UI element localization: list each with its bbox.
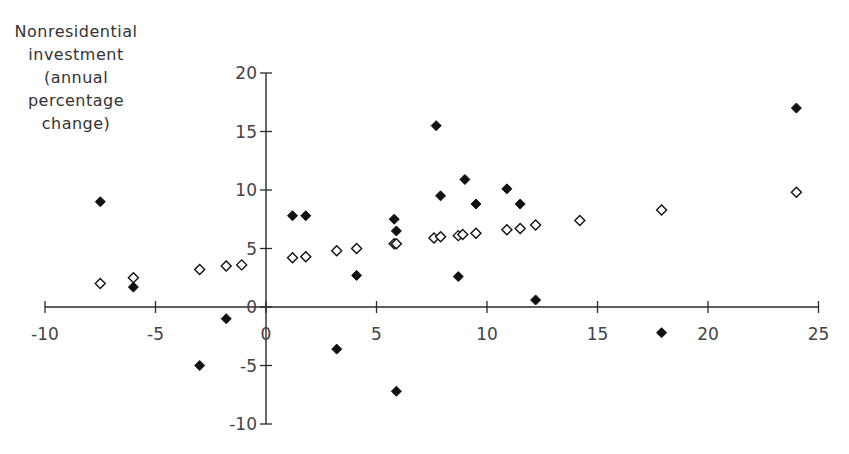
open-diamond-marker <box>657 205 667 215</box>
y-tick-label: 0 <box>246 297 257 317</box>
filled-diamond-marker <box>221 314 231 324</box>
filled-diamond-marker <box>391 226 401 236</box>
filled-diamond-marker <box>436 191 446 201</box>
open-diamond-marker <box>515 224 525 234</box>
data-markers <box>95 103 801 396</box>
y-tick-label: -5 <box>240 356 257 376</box>
filled-diamond-marker <box>791 103 801 113</box>
x-tick-label: 20 <box>697 324 719 344</box>
open-diamond-marker <box>95 279 105 289</box>
open-diamond-marker <box>237 260 247 270</box>
y-tick-label: 15 <box>235 122 257 142</box>
open-diamond-marker <box>221 261 231 271</box>
open-diamond-marker <box>531 220 541 230</box>
x-tick-label: -5 <box>147 324 164 344</box>
x-tick-label: 15 <box>587 324 609 344</box>
x-tick-label: 25 <box>808 324 830 344</box>
filled-diamond-marker <box>288 211 298 221</box>
filled-diamond-marker <box>195 361 205 371</box>
x-tick-label: 0 <box>261 324 272 344</box>
open-diamond-marker <box>332 246 342 256</box>
open-diamond-marker <box>128 273 138 283</box>
filled-diamond-marker <box>431 121 441 131</box>
open-diamond-marker <box>352 244 362 254</box>
filled-diamond-marker <box>502 184 512 194</box>
filled-diamond-marker <box>332 344 342 354</box>
filled-diamond-marker <box>471 199 481 209</box>
y-tick-label: 20 <box>235 63 257 83</box>
filled-diamond-marker <box>352 270 362 280</box>
y-tick-label: 10 <box>235 180 257 200</box>
filled-diamond-marker <box>531 295 541 305</box>
x-tick-label: 5 <box>371 324 382 344</box>
open-diamond-marker <box>288 253 298 263</box>
x-tick-label: -10 <box>31 324 59 344</box>
open-diamond-marker <box>471 228 481 238</box>
filled-diamond-marker <box>95 197 105 207</box>
filled-diamond-marker <box>389 214 399 224</box>
open-diamond-marker <box>502 225 512 235</box>
open-diamond-marker <box>195 265 205 275</box>
open-diamond-marker <box>575 215 585 225</box>
scatter-plot: -10-50510152025 -10-505101520 <box>0 0 849 454</box>
y-tick-label: 5 <box>246 239 257 259</box>
y-tick-label: -10 <box>229 414 257 434</box>
filled-diamond-marker <box>301 211 311 221</box>
open-diamond-marker <box>791 187 801 197</box>
filled-diamond-marker <box>460 174 470 184</box>
filled-diamond-marker <box>657 328 667 338</box>
x-tick-label: 10 <box>476 324 498 344</box>
filled-diamond-marker <box>391 386 401 396</box>
open-diamond-marker <box>301 252 311 262</box>
filled-diamond-marker <box>515 199 525 209</box>
filled-diamond-marker <box>453 272 463 282</box>
